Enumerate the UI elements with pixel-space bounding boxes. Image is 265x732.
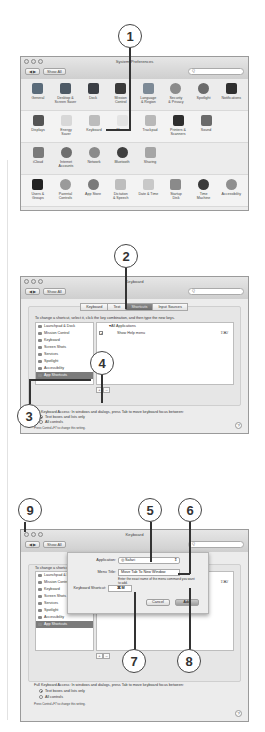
pref-label: Displays	[31, 128, 45, 132]
category-launchpad-dock[interactable]: Launchpad & Dock	[36, 323, 93, 330]
radio-text-boxes[interactable]: Text boxes and lists only	[39, 689, 85, 693]
shortcut-keys[interactable]: ⇧⌘/	[220, 330, 228, 337]
category-list[interactable]: Launchpad & DockMission ControlKeyboardS…	[35, 322, 94, 385]
menu-title-input[interactable]: Move Tab To New Window	[118, 569, 180, 576]
callout-1: 1	[118, 24, 142, 48]
tab-text[interactable]: Text	[107, 303, 126, 311]
forward-icon[interactable]: ▶	[33, 69, 36, 74]
category-screen-shots[interactable]: Screen Shots	[36, 344, 93, 351]
category-spotlight[interactable]: Spotlight	[36, 358, 93, 365]
startup-disk-icon	[170, 179, 181, 190]
show-all-button[interactable]: Show All	[43, 288, 66, 295]
application-select[interactable]: ◎ Safari⇕	[118, 557, 180, 564]
pref-pane-parental-controls[interactable]: Parental Controls	[52, 179, 80, 203]
callout-8-leader	[189, 588, 191, 650]
pref-pane-language-region[interactable]: Language & Region	[135, 83, 163, 107]
category-mission-control[interactable]: Mission Control	[36, 330, 93, 337]
pref-label: Network	[87, 160, 100, 164]
tab-keyboard[interactable]: Keyboard	[80, 303, 108, 311]
tab-input-sources[interactable]: Input Sources	[152, 303, 187, 311]
remove-shortcut-button[interactable]: –	[103, 653, 110, 659]
pref-pane-bluetooth[interactable]: Bluetooth	[108, 147, 136, 171]
pref-pane-network[interactable]: Network	[80, 147, 108, 171]
add-shortcut-button[interactable]: +	[96, 653, 103, 659]
app-shortcuts-icon	[38, 374, 42, 377]
forward-icon[interactable]: ▶	[33, 542, 36, 547]
pref-pane-general[interactable]: General	[24, 83, 52, 107]
radio-all-controls[interactable]: All controls	[39, 695, 63, 699]
shortcut-checkbox[interactable]: ✓	[99, 331, 103, 335]
category-app-shortcuts[interactable]: App Shortcuts	[36, 621, 93, 628]
help-button[interactable]: ?	[235, 422, 242, 429]
pref-pane-accessibility[interactable]: Accessibility	[217, 179, 245, 203]
shortcut-keys[interactable]: ⇧⌘/	[220, 579, 228, 586]
mission-control-icon	[38, 332, 42, 335]
keyboard-shortcut-field[interactable]: ⌘M	[108, 585, 132, 592]
callout-5: 5	[138, 498, 162, 522]
full-keyboard-access-text: Full Keyboard Access: In windows and dia…	[34, 410, 184, 414]
pref-pane-energy-saver[interactable]: Energy Saver	[52, 115, 80, 139]
radio-button[interactable]	[39, 689, 43, 693]
pref-pane-desktop-screen-saver[interactable]: Desktop & Screen Saver	[52, 83, 80, 107]
pref-pane-startup-disk[interactable]: Startup Disk	[162, 179, 190, 203]
pref-pane-users-groups[interactable]: Users & Groups	[24, 179, 52, 203]
search-field[interactable]: Q	[188, 68, 244, 75]
category-services[interactable]: Services	[36, 351, 93, 358]
pref-pane-icloud[interactable]: iCloud	[24, 147, 52, 171]
shortcut-list[interactable]: ▾All Applications✓Show Help menu⇧⌘/	[96, 322, 234, 385]
sound-icon	[201, 115, 212, 126]
pref-label: Sharing	[144, 160, 156, 164]
pref-pane-dock[interactable]: Dock	[79, 83, 107, 107]
displays-icon	[33, 115, 44, 126]
back-forward-buttons[interactable]: ◀ ▶	[25, 68, 40, 75]
cancel-button[interactable]: Cancel	[146, 599, 170, 606]
pref-pane-dictation-speech[interactable]: Dictation & Speech	[107, 179, 135, 203]
search-field[interactable]: Q	[188, 541, 244, 548]
help-button[interactable]: ?	[235, 710, 242, 717]
pref-label: Language & Region	[140, 96, 156, 104]
category-label: Keyboard	[44, 337, 60, 344]
show-all-button[interactable]: Show All	[43, 541, 66, 548]
pref-pane-keyboard[interactable]: Keyboard	[80, 115, 108, 139]
back-icon[interactable]: ◀	[29, 69, 32, 74]
radio-button[interactable]	[39, 695, 43, 699]
category-app-shortcuts[interactable]: App Shortcuts	[36, 372, 93, 379]
callout-8: 8	[177, 649, 201, 673]
pref-pane-date-time[interactable]: Date & Time	[135, 179, 163, 203]
shortcut-row[interactable]: ✓Show Help menu⇧⌘/	[97, 330, 233, 337]
pref-pane-internet-accounts[interactable]: Internet Accounts	[52, 147, 80, 171]
pref-pane-displays[interactable]: Displays	[24, 115, 52, 139]
back-icon[interactable]: ◀	[29, 542, 32, 547]
pref-pane-sharing[interactable]: Sharing	[136, 147, 164, 171]
show-all-button[interactable]: Show All	[43, 68, 66, 75]
remove-shortcut-button[interactable]: –	[103, 387, 110, 393]
category-label: Services	[44, 351, 58, 358]
radio-text-boxes[interactable]: Text boxes and lists only	[39, 415, 85, 419]
group-all-applications[interactable]: ▾All Applications	[97, 323, 233, 330]
back-forward-buttons[interactable]: ◀ ▶	[25, 541, 40, 548]
parental-controls-icon	[60, 179, 71, 190]
pref-pane-printers-scanners[interactable]: Printers & Scanners	[164, 115, 192, 139]
back-icon[interactable]: ◀	[29, 289, 32, 294]
pref-pane-notifications[interactable]: Notifications	[217, 83, 245, 107]
back-forward-buttons[interactable]: ◀ ▶	[25, 288, 40, 295]
add-button[interactable]: Add	[175, 599, 199, 606]
pref-pane-time-machine[interactable]: Time Machine	[190, 179, 218, 203]
radio-all-controls[interactable]: All controls	[39, 420, 63, 424]
category-accessibility[interactable]: Accessibility	[36, 365, 93, 372]
callout-9: 9	[18, 498, 42, 522]
keyboard-shortcut-label: Keyboard Shortcut:	[70, 586, 106, 590]
pref-pane-trackpad[interactable]: Trackpad	[136, 115, 164, 139]
pref-pane-sound[interactable]: Sound	[192, 115, 220, 139]
pref-pane-mouse[interactable]: Mouse	[108, 115, 136, 139]
forward-icon[interactable]: ▶	[33, 289, 36, 294]
category-accessibility[interactable]: Accessibility	[36, 614, 93, 621]
category-keyboard[interactable]: Keyboard	[36, 337, 93, 344]
pref-pane-security-privacy[interactable]: Security & Privacy	[162, 83, 190, 107]
pref-pane-app-store[interactable]: App Store	[79, 179, 107, 203]
pref-pane-spotlight[interactable]: Spotlight	[190, 83, 218, 107]
preferences-row: GeneralDesktop & Screen SaverDockMission…	[21, 79, 248, 111]
tab-shortcuts[interactable]: Shortcuts	[125, 303, 153, 311]
category-label: Accessibility	[44, 614, 64, 621]
search-field[interactable]: Q	[188, 288, 244, 295]
